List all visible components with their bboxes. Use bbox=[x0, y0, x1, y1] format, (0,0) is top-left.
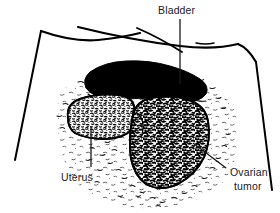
ovarian-tumor-label-line1: Ovarian bbox=[230, 166, 268, 178]
surgical-illustration-figure: Bladder Uterus Ovarian tumor bbox=[0, 0, 280, 213]
ovarian-tumor-label-line2: tumor bbox=[234, 180, 262, 192]
bladder-label: Bladder bbox=[158, 4, 196, 16]
illustration-canvas: Bladder Uterus Ovarian tumor bbox=[0, 0, 280, 213]
uterus-label: Uterus bbox=[61, 171, 93, 183]
